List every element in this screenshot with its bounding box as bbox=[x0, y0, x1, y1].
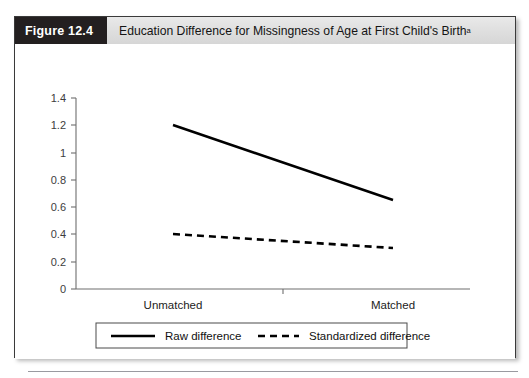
y-tick-label: 0 bbox=[60, 283, 66, 295]
figure-title-footnote-marker: a bbox=[467, 26, 471, 35]
y-tick-label: 0.4 bbox=[51, 228, 66, 240]
y-tick-label: 1 bbox=[60, 147, 66, 159]
figure-title: Education Difference for Missingness of … bbox=[119, 24, 467, 38]
figure-number-badge: Figure 12.4 bbox=[15, 17, 107, 44]
line-chart: 1.4 1.2 1 0.8 0.6 0.4 0.2 0 Unmatched Ma… bbox=[15, 44, 515, 359]
figure-frame: Figure 12.4 Education Difference for Mis… bbox=[14, 16, 516, 358]
page-divider-rule bbox=[28, 371, 518, 372]
figure-number-label: Figure 12.4 bbox=[25, 24, 93, 38]
figure-header: Figure 12.4 Education Difference for Mis… bbox=[15, 17, 515, 44]
y-axis-ticks bbox=[71, 98, 76, 289]
chart-plot-area: 1.4 1.2 1 0.8 0.6 0.4 0.2 0 Unmatched Ma… bbox=[15, 44, 515, 359]
y-tick-label: 0.2 bbox=[51, 256, 66, 268]
chart-legend: Raw difference Standardized difference bbox=[96, 323, 430, 348]
x-category-label-unmatched: Unmatched bbox=[144, 299, 203, 311]
x-category-label-matched: Matched bbox=[371, 299, 415, 311]
legend-label-raw-difference: Raw difference bbox=[165, 330, 242, 342]
y-tick-label: 1.4 bbox=[51, 92, 66, 104]
series-line-standardized-difference bbox=[173, 234, 393, 248]
y-tick-label: 1.2 bbox=[51, 119, 66, 131]
y-axis-tick-labels: 1.4 1.2 1 0.8 0.6 0.4 0.2 0 bbox=[51, 92, 66, 295]
series-line-raw-difference bbox=[173, 125, 393, 200]
y-tick-label: 0.6 bbox=[51, 201, 66, 213]
figure-title-bar: Education Difference for Missingness of … bbox=[107, 17, 515, 44]
y-tick-label: 0.8 bbox=[51, 174, 66, 186]
legend-label-standardized-difference: Standardized difference bbox=[309, 330, 430, 342]
